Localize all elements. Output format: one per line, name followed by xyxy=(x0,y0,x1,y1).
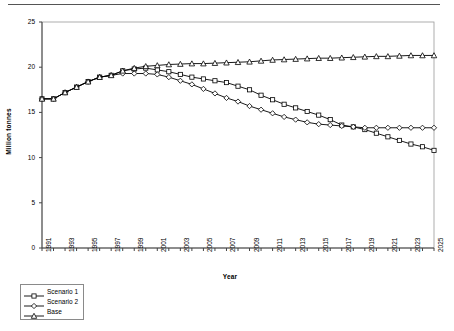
legend-marker-triangle-icon xyxy=(23,307,45,317)
series-base xyxy=(39,53,436,101)
x-tick-label: 2021 xyxy=(391,238,398,252)
x-tick-label: 2025 xyxy=(437,238,444,252)
x-tick-label: 2013 xyxy=(299,238,306,252)
chart-legend: Scenario 1Scenario 2Base xyxy=(20,284,84,320)
y-tick-label: 20 xyxy=(15,63,35,70)
x-tick-label: 2003 xyxy=(183,238,190,252)
x-tick-label: 2001 xyxy=(160,238,167,252)
x-tick-label: 2005 xyxy=(206,238,213,252)
legend-item: Scenario 1 xyxy=(23,287,78,297)
y-tick-label: 0 xyxy=(15,244,35,251)
chart-figure: Million tonnes Year 0510152025 199119931… xyxy=(0,0,454,331)
y-axis-title: Million tonnes xyxy=(5,100,12,164)
y-tick-label: 5 xyxy=(15,199,35,206)
legend-item: Scenario 2 xyxy=(23,297,78,307)
x-tick-label: 1991 xyxy=(45,238,52,252)
legend-label: Base xyxy=(45,307,62,317)
x-tick-label: 1995 xyxy=(91,238,98,252)
x-tick-label: 1997 xyxy=(114,238,121,252)
legend-marker-square-icon xyxy=(23,287,45,297)
y-tick-label: 10 xyxy=(15,154,35,161)
x-tick-label: 2017 xyxy=(345,238,352,252)
x-tick-label: 2007 xyxy=(229,238,236,252)
y-tick-label: 25 xyxy=(15,18,35,25)
x-tick-label: 2011 xyxy=(276,238,283,252)
x-tick-label: 1993 xyxy=(68,238,75,252)
x-tick-label: 2015 xyxy=(322,238,329,252)
legend-item: Base xyxy=(23,307,78,317)
x-tick-label: 2023 xyxy=(414,238,421,252)
line-chart-plot xyxy=(0,0,454,331)
legend-label: Scenario 2 xyxy=(45,297,78,307)
legend-label: Scenario 1 xyxy=(45,287,78,297)
x-tick-label: 2019 xyxy=(368,238,375,252)
y-tick-label: 15 xyxy=(15,108,35,115)
legend-marker-diamond-icon xyxy=(23,297,45,307)
x-tick-label: 2009 xyxy=(253,238,260,252)
x-axis-title: Year xyxy=(205,273,255,280)
x-tick-label: 1999 xyxy=(137,238,144,252)
